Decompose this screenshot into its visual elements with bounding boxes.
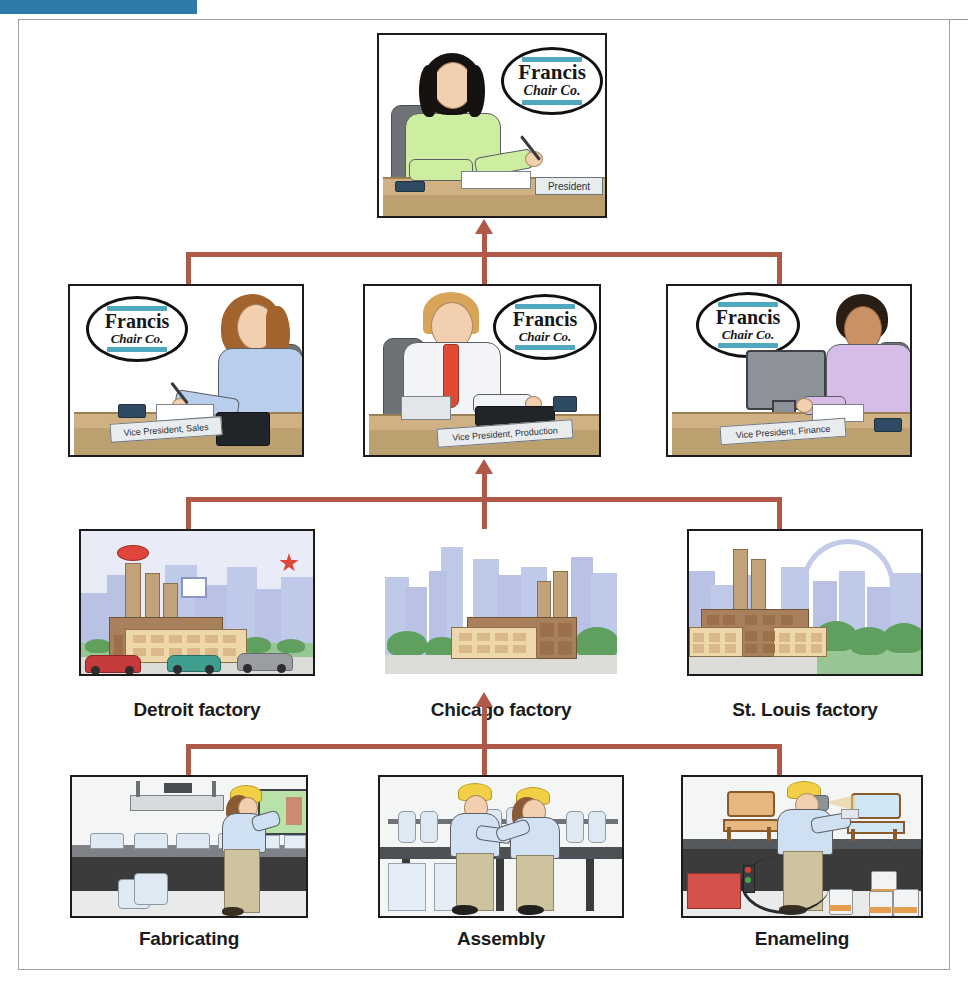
factory-window-dark [540,641,554,655]
logo-bar-bottom [515,345,576,350]
tree [387,631,427,657]
worker-shoe [452,905,478,915]
org-node-vp-finance[interactable]: Francis Chair Co. Vice President, Financ… [666,284,912,457]
org-node-vp-production[interactable]: Francis Chair Co. Vice President, Produc… [363,284,601,457]
factory-window [169,635,182,643]
factory-window [795,633,806,642]
worker-shoe [518,905,544,915]
connector-vertical-left-level3 [186,497,191,529]
sheet-blank [134,833,168,849]
org-node-detroit-factory[interactable] [79,529,315,676]
sheet-blank [176,833,210,849]
factory-window [811,633,822,642]
calculator [118,404,146,418]
org-node-vp-sales[interactable]: Francis Chair Co. Vice President, Sales [68,284,304,457]
factory-window [811,644,822,653]
worker-legs [516,855,554,911]
press-frame [130,795,224,811]
calculator [874,418,902,432]
org-node-chicago-factory[interactable] [383,529,619,676]
chair-part [398,811,416,843]
factory-window [477,633,490,641]
org-node-stlouis-factory[interactable] [687,529,923,676]
factory-window-dark [745,644,757,653]
factory-window [495,645,508,653]
factory-window [459,633,472,641]
calculator [395,181,425,192]
paint-can [829,889,853,915]
label-stlouis-factory: St. Louis factory [687,699,923,721]
indicator-light-green [745,877,751,883]
factory-window [151,648,164,656]
bush [277,639,305,653]
table-leg [496,859,504,911]
factory-window-dark [745,631,757,641]
paper-stack [401,396,451,420]
factory-window [459,645,472,653]
logo-line2: Chair Co. [111,332,164,345]
org-node-assembly[interactable] [378,775,624,918]
factory-window [779,633,790,642]
worker-legs [456,853,494,911]
factory-door [114,635,123,657]
org-node-enameling[interactable] [681,775,923,918]
factory-window [513,633,526,641]
connector-arrow-level3 [475,459,493,474]
smokestack [125,563,141,623]
factory-window [223,648,236,656]
tablet [216,412,270,446]
smokestack [751,559,766,613]
paint-can-band [869,907,891,913]
org-node-fabricating[interactable] [70,775,308,918]
nameplate-president: President [535,177,603,195]
connector-arrow-level2 [475,219,493,234]
calculator [553,396,577,412]
logo-line2: Chair Co. [524,84,581,98]
factory-window [205,635,218,643]
press-ram [164,783,192,793]
assembly-table-top [380,847,624,859]
connector-vertical-left-level2 [186,252,191,285]
logo-line1: Francis [105,311,169,331]
logo-line1: Francis [513,309,577,329]
press-column [136,781,140,797]
chair-part [588,811,606,843]
org-node-president[interactable]: Francis Chair Co. President [377,33,607,218]
logo-line1: Francis [716,307,780,327]
car-wheel [91,666,100,675]
chair-leg [851,829,855,841]
factory-window [513,645,526,653]
car-wheel [125,666,134,675]
workbench-body [72,857,308,891]
logo-line1: Francis [518,62,586,83]
factory-window-dark [763,615,775,625]
logo-bar-bottom [522,100,582,105]
paint-can-band [893,907,917,913]
factory-window [477,645,490,653]
factory-window [795,644,806,653]
factory-window [725,644,736,653]
stacked-blanks [284,835,306,849]
sheet-blank [90,833,124,849]
compressor-unit [687,873,741,909]
person-hand [796,398,813,413]
factory-window [187,635,200,643]
chair-unpainted-back [727,791,775,817]
car-wheel [205,665,214,674]
desk-front [383,195,605,217]
paint-can-band [829,905,851,911]
brand-logo: Francis Chair Co. [86,296,188,362]
connector-vertical-left-level4 [186,744,191,776]
factory-window [779,644,790,653]
factory-building-light [451,627,537,659]
person-hair-left [419,65,437,117]
factory-window [693,633,704,642]
connector-vertical-right-level3 [777,497,782,529]
logo-line2: Chair Co. [722,328,775,341]
factory-window [709,644,720,653]
smokestack [145,573,160,623]
connector-vertical-center-level2 [482,233,487,285]
factory-window [709,633,720,642]
press-column [212,781,216,797]
brand-logo: Francis Chair Co. [501,47,603,115]
